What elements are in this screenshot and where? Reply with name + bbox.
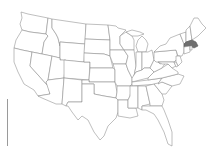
- state-michigan[interactable]: [136, 36, 148, 52]
- state-rhode-island[interactable]: [190, 46, 192, 50]
- state-florida[interactable]: [142, 106, 172, 146]
- us-states-map: [0, 0, 216, 154]
- state-wyoming[interactable]: [60, 42, 85, 62]
- state-maine[interactable]: [190, 18, 206, 40]
- state-connecticut[interactable]: [184, 46, 190, 54]
- scale-bar: [7, 99, 8, 146]
- state-kansas[interactable]: [89, 68, 115, 82]
- state-colorado[interactable]: [64, 60, 90, 80]
- state-north-dakota[interactable]: [85, 24, 110, 40]
